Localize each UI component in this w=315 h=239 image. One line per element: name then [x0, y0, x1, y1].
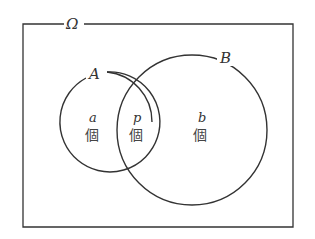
universe-label: Ω — [65, 15, 78, 33]
region-a-var: a — [89, 110, 97, 125]
set-b-label: B — [219, 49, 231, 67]
venn-diagram: Ω A B a 個 p 個 b 個 — [0, 0, 315, 239]
set-a-circle — [60, 72, 160, 172]
region-b-var: b — [198, 110, 206, 125]
region-p-var: p — [133, 110, 142, 125]
region-b-unit: 個 — [193, 127, 207, 143]
set-a-label: A — [87, 65, 100, 83]
region-p-unit: 個 — [129, 127, 143, 143]
region-a-unit: 個 — [85, 127, 99, 143]
set-a-circle-arc — [107, 72, 152, 122]
